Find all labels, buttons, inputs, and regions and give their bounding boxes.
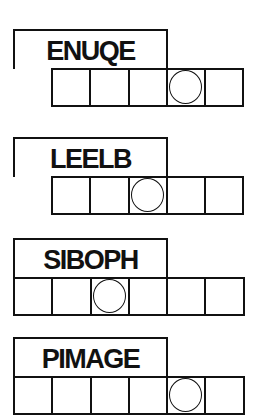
answer-cell[interactable] <box>130 378 168 413</box>
scrambled-word-box: LEELB <box>13 137 168 177</box>
cell-letter <box>130 378 166 413</box>
answer-cell[interactable] <box>15 378 53 413</box>
cell-letter <box>53 378 89 413</box>
answer-cell[interactable] <box>92 378 130 413</box>
answer-cell-circled[interactable] <box>92 279 130 314</box>
cell-letter <box>206 279 242 314</box>
answer-cell[interactable] <box>53 178 91 213</box>
answer-cell[interactable] <box>130 70 168 105</box>
cell-letter <box>91 70 127 105</box>
cell-letter <box>53 70 89 105</box>
scrambled-word-box: SIBOPH <box>13 238 168 278</box>
cell-letter <box>91 178 127 213</box>
scrambled-word-box: ENUQE <box>13 29 168 69</box>
cell-letter <box>206 178 242 213</box>
cell-letter <box>168 178 204 213</box>
answer-cell-circled[interactable] <box>130 178 168 213</box>
cell-letter <box>130 279 166 314</box>
answer-cell-circled[interactable] <box>168 378 206 413</box>
answer-cell[interactable] <box>15 279 53 314</box>
scrambled-word-text: SIBOPH <box>43 247 138 274</box>
answer-cell[interactable] <box>91 70 129 105</box>
cell-letter <box>168 279 204 314</box>
answer-cell[interactable] <box>53 378 91 413</box>
answer-cell[interactable] <box>130 279 168 314</box>
answer-cell[interactable] <box>206 178 244 213</box>
cell-letter <box>92 378 128 413</box>
answer-cells <box>13 376 245 415</box>
answer-cell[interactable] <box>53 279 91 314</box>
scrambled-word-box: PIMAGE <box>13 337 168 377</box>
answer-cells <box>51 68 244 107</box>
answer-cell[interactable] <box>53 70 91 105</box>
answer-cell[interactable] <box>206 70 244 105</box>
cell-letter <box>206 378 242 413</box>
cell-letter <box>130 70 166 105</box>
cell-letter <box>15 279 51 314</box>
cell-letter <box>168 378 204 413</box>
answer-cell-circled[interactable] <box>168 70 206 105</box>
cell-letter <box>15 378 51 413</box>
scrambled-word-text: PIMAGE <box>42 346 140 373</box>
cell-letter <box>92 279 128 314</box>
cell-letter <box>53 279 89 314</box>
scrambled-word-text: ENUQE <box>46 38 135 65</box>
answer-cells <box>13 277 245 316</box>
answer-cell[interactable] <box>168 279 206 314</box>
cell-letter <box>53 178 89 213</box>
answer-cell[interactable] <box>206 279 244 314</box>
answer-cell[interactable] <box>168 178 206 213</box>
cell-letter <box>168 70 204 105</box>
cell-letter <box>130 178 166 213</box>
answer-cell[interactable] <box>91 178 129 213</box>
cell-letter <box>206 70 242 105</box>
answer-cell[interactable] <box>206 378 244 413</box>
scrambled-word-text: LEELB <box>50 146 131 173</box>
answer-cells <box>51 176 244 215</box>
